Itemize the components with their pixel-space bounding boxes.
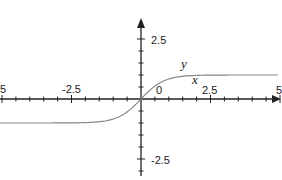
- x-tick-label-5: 5: [276, 84, 282, 96]
- y-variable-label: y: [179, 56, 187, 71]
- chart-plot: 5 -2.5 0 2.5 5 2.5 -2.5 y x: [0, 0, 282, 180]
- x-tick-label-neg2.5: -2.5: [62, 83, 81, 95]
- x-tick-label-2.5: 2.5: [202, 84, 217, 96]
- x-tick-label-neg5: 5: [0, 83, 6, 95]
- x-tick-label-0: 0: [156, 84, 162, 96]
- y-tick-label-neg2.5: -2.5: [151, 154, 170, 166]
- y-tick-label-2.5: 2.5: [151, 34, 166, 46]
- x-variable-label: x: [191, 72, 198, 87]
